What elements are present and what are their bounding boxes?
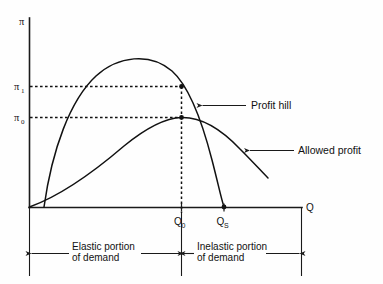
economics-chart: π Q π 1 π 0 Q 0 Q S Profit hill Allowed … [0,0,383,284]
y-axis-label: π [19,16,25,27]
callout-profit-hill: Profit hill [203,99,292,111]
axis-labels-group: π Q π 1 π 0 Q 0 Q S [14,16,314,229]
y-tick-pi0-base: π [14,112,20,123]
y-tick-pi1-base: π [14,81,20,92]
profit-hill-label: Profit hill [251,99,291,111]
allowed-profit-label: Allowed profit [298,144,361,156]
profit-hill-curve [44,59,224,207]
y-tick-pi1-subscript: 1 [21,87,25,95]
reference-lines-group [30,87,182,214]
x-tick-qs-subscript: S [224,222,229,229]
marker-pi1-q0 [179,84,184,89]
inelastic-label-line2: of demand [197,252,244,263]
inelastic-label-line1: Inelastic portion [197,241,267,252]
marker-pi0-q0 [179,115,184,120]
callout-allowed-profit: Allowed profit [250,144,361,156]
x-tick-q0-subscript: 0 [182,222,186,229]
region-inelastic: Inelastic portion of demand [184,241,300,263]
elastic-label-line1: Elastic portion [72,241,135,252]
profit-hill-figure: π Q π 1 π 0 Q 0 Q S Profit hill Allowed … [0,0,383,284]
y-tick-pi0-subscript: 0 [21,118,25,126]
elastic-label-line2: of demand [72,252,119,263]
curves-group [30,59,269,207]
region-elastic: Elastic portion of demand [32,241,180,263]
allowed-profit-curve [30,117,269,207]
x-axis-label: Q [306,202,314,213]
